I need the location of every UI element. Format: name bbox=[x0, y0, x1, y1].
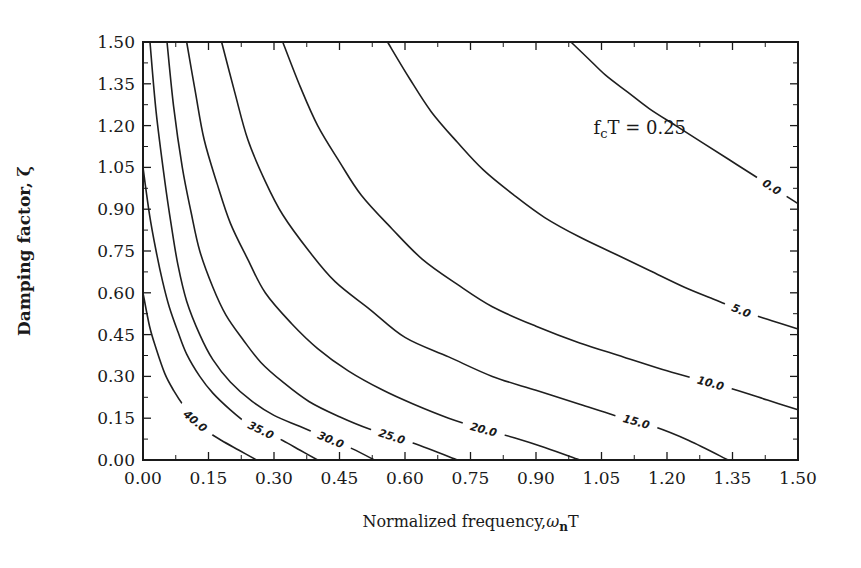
annotation-fct: fcT = 0.25 bbox=[594, 117, 687, 141]
y-axis: 0.000.150.300.450.600.750.901.051.201.35… bbox=[97, 32, 798, 470]
contour-label-10-0: 10.0 bbox=[696, 374, 726, 394]
y-tick-label: 1.05 bbox=[97, 157, 135, 177]
contour-line-15-0 bbox=[222, 42, 729, 460]
contour-label-15-0: 15.0 bbox=[621, 412, 651, 432]
contour-label-40-0: 40.0 bbox=[180, 407, 210, 435]
x-tick-label: 0.30 bbox=[255, 468, 293, 488]
y-tick-label: 0.90 bbox=[97, 199, 135, 219]
contour-chart: 40.035.030.025.020.015.010.05.00.0 0.000… bbox=[0, 0, 861, 568]
contour-line-20-0 bbox=[187, 42, 580, 460]
x-axis-title-symbol: ω bbox=[546, 512, 559, 531]
contour-line-30-0 bbox=[150, 42, 374, 460]
y-tick-label: 0.00 bbox=[97, 450, 135, 470]
x-tick-label: 1.05 bbox=[583, 468, 621, 488]
plot-frame bbox=[143, 42, 798, 460]
x-tick-label: 0.00 bbox=[124, 468, 162, 488]
x-axis-title-suffix: T bbox=[568, 512, 579, 531]
y-tick-label: 0.30 bbox=[97, 366, 135, 386]
y-tick-label: 1.35 bbox=[97, 74, 135, 94]
x-tick-label: 0.45 bbox=[321, 468, 359, 488]
x-axis-title-subscript: n bbox=[559, 520, 568, 534]
contour-label-5-0: 5.0 bbox=[730, 301, 753, 321]
contour-label-0-0: 0.0 bbox=[760, 177, 784, 199]
y-tick-label: 1.20 bbox=[97, 116, 135, 136]
x-tick-label: 1.20 bbox=[648, 468, 686, 488]
y-tick-label: 0.60 bbox=[97, 283, 135, 303]
y-tick-label: 1.50 bbox=[97, 32, 135, 52]
contour-labels: 40.035.030.025.020.015.010.05.00.0 bbox=[180, 177, 784, 452]
contour-line-10-0 bbox=[283, 42, 798, 410]
annotation-suffix: T = 0.25 bbox=[607, 117, 686, 138]
x-tick-label: 0.60 bbox=[386, 468, 424, 488]
x-axis-title-text: Normalized frequency, bbox=[362, 512, 546, 531]
x-tick-label: 1.50 bbox=[779, 468, 817, 488]
y-axis-title: Damping factor, ζ bbox=[14, 166, 34, 336]
contour-label-20-0: 20.0 bbox=[469, 420, 499, 440]
x-tick-label: 0.15 bbox=[190, 468, 228, 488]
contour-lines bbox=[143, 42, 798, 460]
x-tick-label: 1.35 bbox=[714, 468, 752, 488]
contour-line-5-0 bbox=[388, 42, 798, 329]
contour-label-35-0: 35.0 bbox=[246, 419, 276, 443]
x-axis-title: Normalized frequency,ωnT bbox=[362, 512, 579, 534]
contour-label-30-0: 30.0 bbox=[316, 429, 346, 452]
annotation-subscript: c bbox=[600, 126, 607, 141]
y-tick-label: 0.45 bbox=[97, 325, 135, 345]
x-axis: 0.000.150.300.450.600.750.901.051.201.35… bbox=[124, 42, 817, 488]
x-tick-label: 0.90 bbox=[517, 468, 555, 488]
y-tick-label: 0.75 bbox=[97, 241, 135, 261]
contour-label-25-0: 25.0 bbox=[377, 426, 407, 447]
x-tick-label: 0.75 bbox=[452, 468, 490, 488]
y-tick-label: 0.15 bbox=[97, 408, 135, 428]
